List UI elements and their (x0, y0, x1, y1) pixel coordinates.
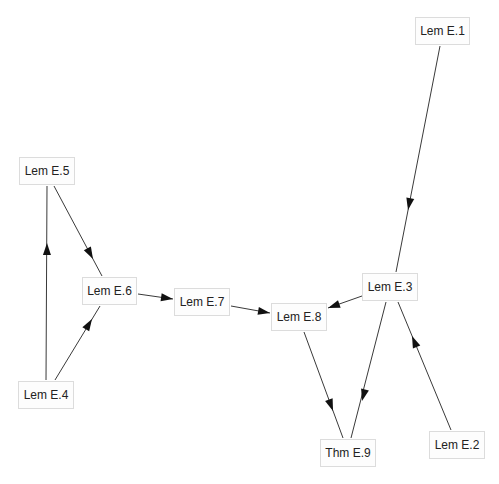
node-e7[interactable]: Lem E.7 (174, 288, 230, 316)
arrowhead-icon (412, 336, 420, 349)
edge-e3-to-e9 (351, 302, 386, 438)
edge-e8-to-e9 (304, 332, 343, 438)
edges-layer (46, 46, 451, 438)
arrowhead-icon (43, 243, 51, 255)
arrowhead-icon (406, 197, 414, 210)
arrowhead-icon (82, 319, 92, 331)
edge-e5-to-e6 (54, 186, 102, 276)
node-e8[interactable]: Lem E.8 (271, 303, 327, 331)
edge-e4-to-e6 (55, 306, 100, 380)
arrowhead-icon (325, 398, 333, 411)
node-e9[interactable]: Thm E.9 (320, 439, 376, 467)
arrowhead-icon (361, 388, 369, 401)
arrowhead-icon (84, 247, 93, 259)
node-e1[interactable]: Lem E.1 (415, 17, 470, 45)
arrowhead-icon (257, 307, 270, 315)
edge-e1-to-e3 (396, 46, 440, 272)
edge-e2-to-e3 (398, 302, 451, 430)
edge-e4-to-e5 (46, 186, 47, 380)
arrowhead-icon (161, 293, 173, 301)
node-e6[interactable]: Lem E.6 (82, 277, 137, 305)
node-e4[interactable]: Lem E.4 (18, 381, 74, 409)
node-e3[interactable]: Lem E.3 (362, 273, 418, 301)
node-e5[interactable]: Lem E.5 (19, 157, 75, 185)
dependency-graph-canvas (0, 0, 499, 484)
arrowhead-icon (328, 300, 341, 308)
node-e2[interactable]: Lem E.2 (429, 431, 485, 459)
